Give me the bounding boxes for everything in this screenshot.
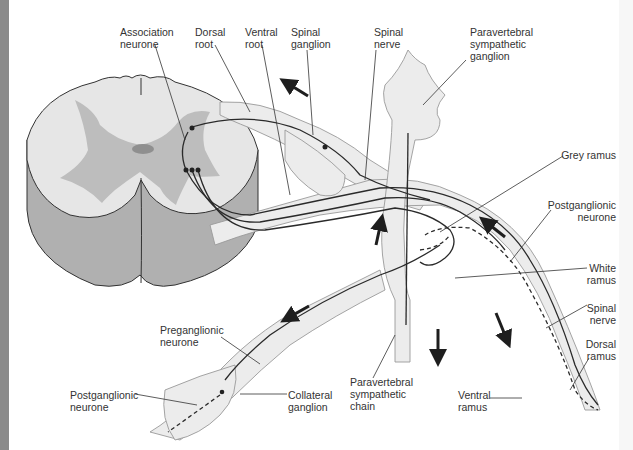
label-paravertebral-ganglion: Paravertebralsympatheticganglion bbox=[470, 26, 533, 62]
label-dorsal-ramus: Dorsalramus bbox=[586, 338, 616, 362]
label-paravertebral-chain: Paravertebralsympatheticchain bbox=[350, 376, 413, 412]
label-dorsal-root: Dorsalroot bbox=[195, 26, 225, 50]
afferent-arrow bbox=[287, 83, 308, 96]
label-postganglionic-right: Postganglionicneurone bbox=[548, 199, 616, 223]
label-spinal-nerve-top: Spinalnerve bbox=[374, 26, 403, 50]
collateral-synapse bbox=[220, 390, 225, 395]
label-spinal-ganglion: Spinalganglion bbox=[291, 26, 331, 50]
label-association-neurone: Associationneurone bbox=[120, 26, 174, 50]
label-postganglionic-left: Postganglionicneurone bbox=[70, 389, 138, 413]
label-grey-ramus: Grey ramus bbox=[561, 149, 616, 161]
sympathetic-pathway-diagram: Associationneurone Dorsalroot Ventralroo… bbox=[0, 0, 633, 450]
label-spinal-nerve-right: Spinalnerve bbox=[587, 302, 616, 326]
label-preganglionic: Preganglionicneurone bbox=[160, 324, 224, 348]
label-ventral-ramus: Ventralramus bbox=[458, 389, 491, 413]
spinal-ganglion-cell-body bbox=[323, 145, 328, 150]
postganglionic-right-fibre bbox=[425, 227, 598, 410]
central-canal bbox=[132, 144, 154, 154]
afferent-cell-body bbox=[190, 126, 195, 131]
label-white-ramus: Whiteramus bbox=[587, 262, 616, 286]
label-ventral-root: Ventralroot bbox=[245, 26, 278, 50]
median-fissure bbox=[141, 178, 142, 283]
chain-up-arrow bbox=[376, 222, 381, 245]
spinal-nerve-arrow bbox=[496, 313, 507, 340]
collateral-ganglion bbox=[164, 365, 236, 440]
label-collateral-ganglion: Collateralganglion bbox=[288, 389, 332, 413]
